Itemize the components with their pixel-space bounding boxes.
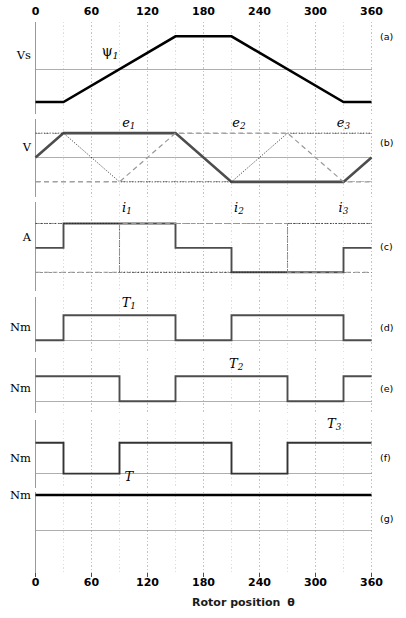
unit-label-d: Nm xyxy=(10,320,31,334)
x-tick-label-bottom-120: 120 xyxy=(136,576,159,589)
annotation-a-0: ψ1 xyxy=(102,43,119,61)
annotation-c-0: i1 xyxy=(122,200,132,216)
unit-label-a: Vs xyxy=(17,48,31,62)
panel-tag-d: (d) xyxy=(380,321,393,332)
annotation-b-2: e3 xyxy=(337,115,350,131)
x-tick-label-top-360: 360 xyxy=(360,5,383,18)
x-tick-label-top-180: 180 xyxy=(192,5,215,18)
unit-label-b: V xyxy=(23,140,31,154)
waveform-plot-canvas xyxy=(0,0,406,618)
annotation-g-0: T xyxy=(124,468,133,483)
unit-label-e: Nm xyxy=(10,381,31,395)
annotation-c-1: i2 xyxy=(234,200,244,216)
x-tick-label-top-300: 300 xyxy=(304,5,327,18)
panel-tag-g: (g) xyxy=(380,513,393,524)
panel-tag-f: (f) xyxy=(380,451,391,462)
x-tick-label-bottom-0: 0 xyxy=(32,576,40,589)
annotation-f-0: T3 xyxy=(327,415,341,431)
x-tick-label-top-60: 60 xyxy=(84,5,99,18)
unit-label-c: A xyxy=(23,230,31,244)
x-tick-label-bottom-300: 300 xyxy=(304,576,327,589)
x-tick-label-top-240: 240 xyxy=(248,5,271,18)
x-tick-label-bottom-60: 60 xyxy=(84,576,99,589)
x-tick-label-top-0: 0 xyxy=(32,5,40,18)
annotation-b-1: e2 xyxy=(232,115,245,131)
panel-tag-b: (b) xyxy=(380,136,393,147)
unit-label-f: Nm xyxy=(10,451,31,465)
x-tick-label-bottom-360: 360 xyxy=(360,576,383,589)
annotation-b-0: e1 xyxy=(122,115,135,131)
panel-tag-e: (e) xyxy=(380,382,393,393)
x-tick-label-top-120: 120 xyxy=(136,5,159,18)
x-tick-label-bottom-240: 240 xyxy=(248,576,271,589)
panel-tag-a: (a) xyxy=(380,31,393,42)
annotation-c-2: i3 xyxy=(339,200,349,216)
x-axis-caption: Rotor positionθ xyxy=(192,596,295,609)
x-tick-label-bottom-180: 180 xyxy=(192,576,215,589)
waveform-figure: 060120180240300360060120180240300360Vs(a… xyxy=(0,0,406,618)
panel-tag-c: (c) xyxy=(380,241,393,252)
unit-label-g: Nm xyxy=(10,488,31,502)
annotation-d-0: T1 xyxy=(122,295,136,311)
annotation-e-0: T2 xyxy=(229,356,243,372)
